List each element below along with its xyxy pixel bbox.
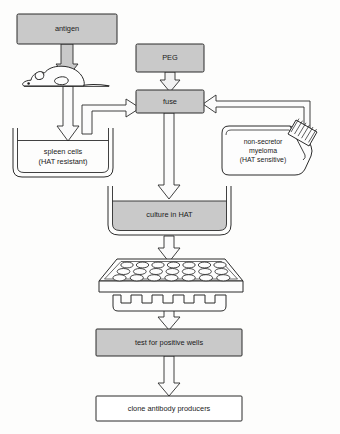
node-clone-producers[interactable]: clone antibody producers (96, 396, 242, 421)
node-test-wells[interactable]: test for positive wells (96, 329, 242, 356)
node-spleen-beaker[interactable]: spleen cells (HAT resistant) (13, 128, 113, 177)
arrow-spleen-to-fuse (82, 99, 140, 134)
node-myeloma-label-line2: myeloma (249, 147, 277, 155)
arrow-peg-to-fuse (160, 72, 180, 92)
node-fuse-label: fuse (163, 97, 177, 106)
node-test-wells-label: test for positive wells (135, 338, 203, 347)
flowchart-canvas: antigen PEG fuse (0, 0, 340, 434)
mouse-illustration (23, 66, 109, 86)
node-spleen-label-line2: (HAT resistant) (38, 157, 87, 166)
arrow-fuse-to-culture (158, 113, 180, 199)
arrow-test-to-clone (158, 356, 180, 396)
node-antigen[interactable]: antigen (17, 14, 117, 44)
node-spleen-label-line1: spleen cells (44, 147, 83, 156)
node-fuse[interactable]: fuse (136, 90, 204, 113)
node-antigen-label: antigen (55, 24, 79, 33)
node-myeloma-label-line1: non-secretor (244, 138, 283, 145)
hybridoma-flowchart: antigen PEG fuse (0, 0, 340, 434)
arrow-mouse-to-spleen (57, 86, 79, 141)
arrow-culture-to-plate (158, 236, 180, 262)
node-microtiter-plate[interactable] (99, 259, 243, 292)
node-myeloma-label-line3: (HAT sensitive) (240, 156, 286, 164)
node-culture-label: culture in HAT (146, 210, 193, 219)
node-peg[interactable]: PEG (136, 44, 204, 72)
node-peg-label: PEG (162, 53, 178, 62)
node-myeloma-flask[interactable]: non-secretor myeloma (HAT sensitive) (222, 119, 317, 175)
node-multichannel-comb[interactable] (113, 295, 226, 311)
mouse-eye-icon (27, 82, 30, 85)
node-clone-producers-label: clone antibody producers (128, 404, 211, 413)
